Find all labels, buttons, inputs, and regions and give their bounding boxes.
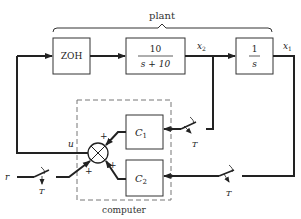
- r-label: r: [5, 172, 10, 182]
- sign-c1: +: [100, 131, 108, 141]
- integrator-block: 1 s: [236, 38, 273, 74]
- junction-dot: [169, 127, 173, 131]
- first-order-denominator: s + 10: [141, 59, 171, 69]
- sampler-c2-T: T: [226, 189, 232, 198]
- sampler-c1-T: T: [192, 140, 198, 149]
- x2-feedback: [206, 56, 213, 129]
- sampler-switch-c1: [164, 117, 196, 133]
- x1-label: x1: [283, 41, 292, 52]
- summing-junction: [88, 143, 108, 163]
- controller-outputs: [106, 132, 126, 179]
- sign-c2: +: [109, 160, 117, 170]
- zoh-block: ZOH: [53, 38, 90, 74]
- first-order-block: 10 s + 10: [126, 38, 185, 74]
- plant-label: plant: [149, 10, 175, 21]
- sampler-r-T: T: [39, 187, 45, 196]
- plant-brace: [53, 24, 272, 32]
- zoh-label: ZOH: [61, 51, 83, 61]
- sampler-switch-c2: [164, 165, 234, 182]
- junction-dot: [169, 174, 173, 178]
- c1-block: C1: [126, 115, 163, 149]
- u-label: u: [68, 139, 74, 149]
- x2-label: x2: [197, 41, 206, 52]
- computer-label: computer: [102, 205, 146, 215]
- first-order-numerator: 10: [150, 44, 162, 54]
- sign-r: +: [85, 166, 93, 176]
- sampler-switch-r: [17, 161, 90, 184]
- integrator-denominator: s: [252, 59, 257, 69]
- integrator-numerator: 1: [252, 44, 258, 54]
- c2-block: C2: [126, 160, 163, 196]
- block-diagram: plant ZOH 10 s + 10 1 s x2 x1 T: [0, 0, 301, 219]
